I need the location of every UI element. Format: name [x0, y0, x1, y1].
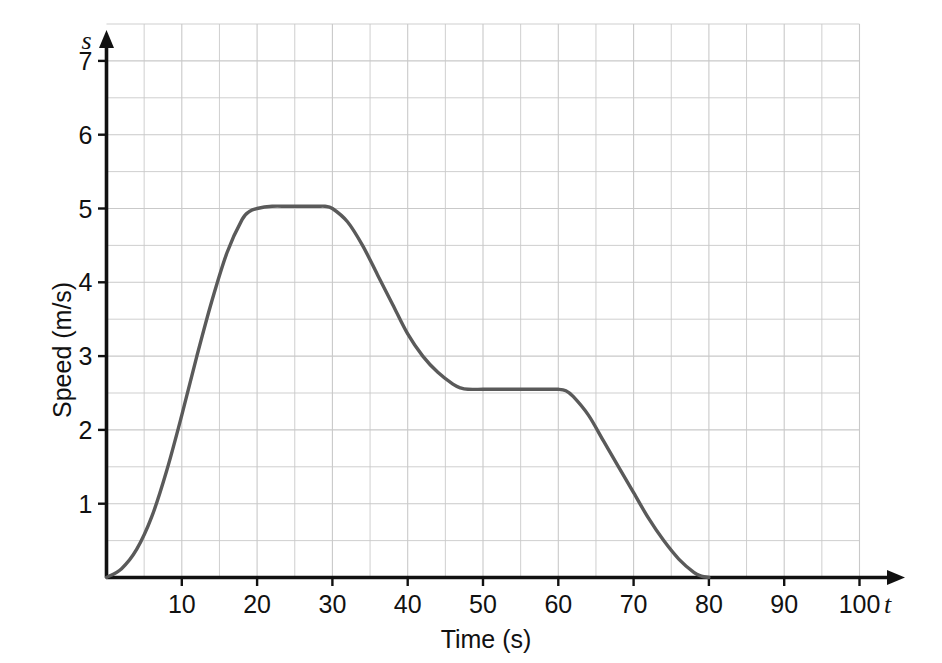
- x-tick-label-60: 60: [544, 590, 572, 619]
- y-tick-label-1: 1: [79, 489, 93, 518]
- y-tick-label-2: 2: [79, 415, 93, 444]
- x-tick-label-10: 10: [168, 590, 196, 619]
- x-axis-symbol-label: t: [884, 590, 891, 620]
- x-tick-label-80: 80: [695, 590, 723, 619]
- x-tick-label-30: 30: [318, 590, 346, 619]
- speed-time-chart: 102030405060708090100 1234567 s t Time (…: [0, 0, 942, 663]
- x-tick-label-90: 90: [770, 590, 798, 619]
- x-tick-label-40: 40: [394, 590, 422, 619]
- chart-canvas: [0, 0, 942, 663]
- x-tick-label-50: 50: [469, 590, 497, 619]
- y-tick-label-6: 6: [79, 120, 93, 149]
- y-axis-title: Speed (m/s): [48, 282, 77, 418]
- x-tick-label-70: 70: [620, 590, 648, 619]
- y-tick-label-4: 4: [79, 268, 93, 297]
- x-tick-label-20: 20: [243, 590, 271, 619]
- y-tick-label-3: 3: [79, 342, 93, 371]
- y-axis-symbol-label: s: [82, 26, 92, 56]
- x-tick-label-100: 100: [839, 590, 881, 619]
- y-tick-label-5: 5: [79, 194, 93, 223]
- axis-tick-marks: [98, 61, 860, 586]
- x-axis-title: Time (s): [441, 625, 532, 654]
